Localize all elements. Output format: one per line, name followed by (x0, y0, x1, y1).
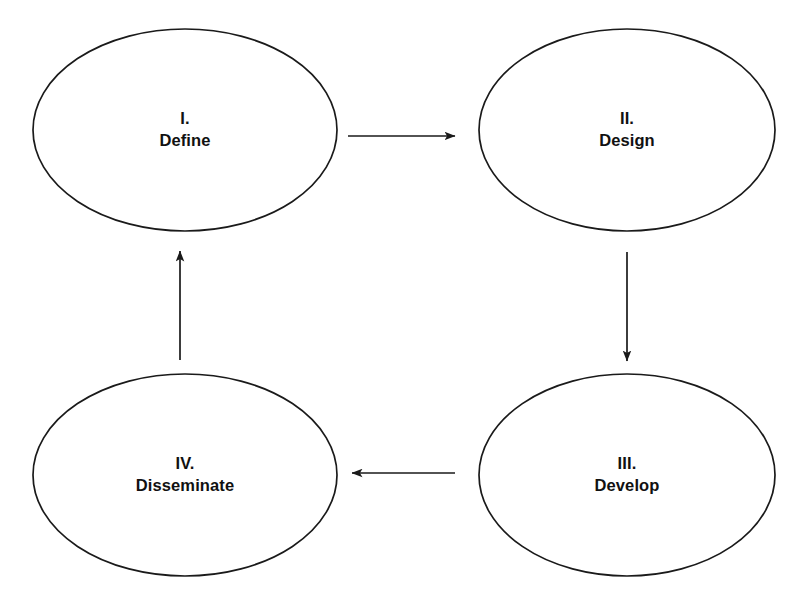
node-numeral-design: II. (599, 108, 655, 130)
node-numeral-disseminate: IV. (136, 453, 234, 475)
diagram-canvas (0, 0, 799, 609)
node-label-develop: III. Develop (595, 453, 660, 497)
process-cycle-diagram: I. Define II. Design III. Develop IV. Di… (0, 0, 799, 609)
node-label-design: II. Design (599, 108, 655, 152)
node-label-define: I. Define (159, 108, 210, 152)
node-name-develop: Develop (595, 475, 660, 497)
node-name-disseminate: Disseminate (136, 475, 234, 497)
node-label-disseminate: IV. Disseminate (136, 453, 234, 497)
node-name-define: Define (159, 130, 210, 152)
node-numeral-define: I. (159, 108, 210, 130)
node-name-design: Design (599, 130, 655, 152)
node-numeral-develop: III. (595, 453, 660, 475)
